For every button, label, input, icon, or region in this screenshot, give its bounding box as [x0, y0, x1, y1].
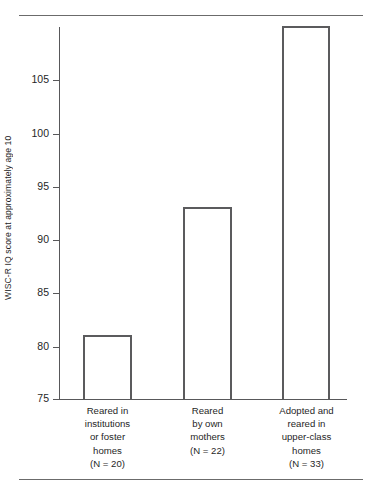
bar-chart-figure: WISC-R IQ score at approximately age 10 …	[0, 0, 380, 491]
category-labels: Reared in institutions or foster homes (…	[59, 404, 347, 474]
category-line: reared in	[258, 417, 355, 430]
x-axis-line	[59, 399, 347, 400]
y-tick-95: 95	[53, 187, 60, 188]
y-tick-100: 100	[53, 134, 60, 135]
category-line: Reared in	[59, 404, 156, 417]
y-tick-105: 105	[53, 80, 60, 81]
y-tick-label-85: 85	[37, 286, 49, 299]
category-label-0: Reared in institutions or foster homes (…	[59, 404, 156, 470]
y-axis-title: WISC-R IQ score at approximately age 10	[0, 98, 16, 338]
bar-adopted-upper-class[interactable]	[282, 26, 330, 399]
y-tick-80: 80	[53, 347, 60, 348]
category-label-2: Adopted and reared in upper-class homes …	[258, 404, 355, 470]
y-tick-label-105: 105	[31, 73, 49, 86]
category-line: institutions	[59, 417, 156, 430]
category-label-1: Reared by own mothers (N = 22)	[159, 404, 256, 457]
plot-area: 105 100 95 90 85 80 75	[59, 27, 347, 400]
top-rule	[19, 15, 363, 16]
y-tick-90: 90	[53, 240, 60, 241]
category-line: mothers	[159, 430, 256, 443]
y-tick-label-75: 75	[37, 392, 49, 405]
category-line: by own	[159, 417, 256, 430]
category-line: Adopted and	[258, 404, 355, 417]
y-tick-label-90: 90	[37, 233, 49, 246]
y-tick-75: 75	[53, 399, 60, 400]
y-tick-label-95: 95	[37, 180, 49, 193]
category-line: or foster	[59, 430, 156, 443]
category-sample-size: (N = 20)	[59, 457, 156, 470]
y-axis-line	[59, 27, 60, 400]
category-line: homes	[258, 444, 355, 457]
y-tick-85: 85	[53, 293, 60, 294]
category-sample-size: (N = 33)	[258, 457, 355, 470]
bottom-rule	[19, 479, 363, 480]
bar-reared-in-institutions[interactable]	[83, 335, 132, 399]
y-tick-label-80: 80	[37, 340, 49, 353]
category-sample-size: (N = 22)	[159, 444, 256, 457]
category-line: Reared	[159, 404, 256, 417]
y-tick-label-100: 100	[31, 127, 49, 140]
bar-reared-by-own-mothers[interactable]	[183, 207, 232, 399]
category-line: upper-class	[258, 430, 355, 443]
category-line: homes	[59, 444, 156, 457]
